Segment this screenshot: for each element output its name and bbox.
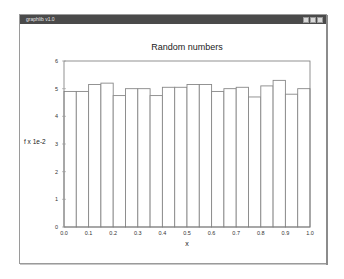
chart-title: Random numbers [151,42,223,52]
x-tick-label: 0.6 [208,230,216,236]
bar [261,86,273,227]
bar [64,91,76,227]
x-tick-label: 1.0 [306,230,314,236]
bar [76,91,88,227]
bar [162,87,174,227]
y-tick-label: 6 [55,58,58,64]
y-tick-label: 1 [55,196,58,202]
x-tick-label: 0.8 [257,230,265,236]
x-tick-label: 0.4 [159,230,167,236]
x-tick-label: 0.1 [85,230,93,236]
bar [199,85,211,227]
bars [64,80,310,227]
y-tick-label: 2 [55,169,58,175]
bar [138,89,150,227]
y-tick-label: 0 [55,224,58,230]
y-tick-label: 3 [55,141,58,147]
y-tick-label: 5 [55,86,58,92]
x-axis-label: x [185,240,189,247]
bar [236,87,248,227]
bar [89,85,101,227]
bar [212,91,224,227]
bar [126,89,138,227]
x-tick-label: 0.7 [232,230,240,236]
bar [224,89,236,227]
bar [249,97,261,227]
bar [175,87,187,227]
bar [187,85,199,227]
x-tick-label: 0.3 [134,230,142,236]
x-tick-label: 0.0 [60,230,68,236]
x-tick-label: 0.9 [282,230,290,236]
x-tick-label: 0.5 [183,230,191,236]
bar [113,96,125,227]
y-axis-label: f x 1e-2 [24,138,46,145]
x-axis-ticks: 0.00.10.20.30.40.50.60.70.80.91.0 [60,230,314,236]
bar [150,96,162,227]
histogram-chart: Random numbers 0123456 0.00.10.20.30.40.… [0,0,344,279]
bar [298,89,310,227]
y-tick-label: 4 [55,113,58,119]
bar [273,80,285,227]
x-tick-label: 0.2 [109,230,117,236]
bar [285,94,297,227]
bar [101,83,113,227]
